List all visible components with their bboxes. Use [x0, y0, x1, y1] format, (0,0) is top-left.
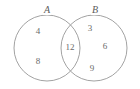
element-a-only-2: 8	[36, 57, 41, 66]
element-intersection-1: 12	[66, 43, 75, 52]
set-b-label: B	[91, 5, 99, 15]
element-b-only-2: 6	[103, 42, 108, 51]
element-a-only-1: 4	[36, 27, 41, 36]
element-b-only-1: 3	[88, 24, 93, 33]
element-b-only-3: 9	[90, 64, 95, 73]
venn-diagram-figure: A B 4 8 12 3 6 9	[0, 0, 140, 89]
set-a-label: A	[43, 5, 51, 15]
